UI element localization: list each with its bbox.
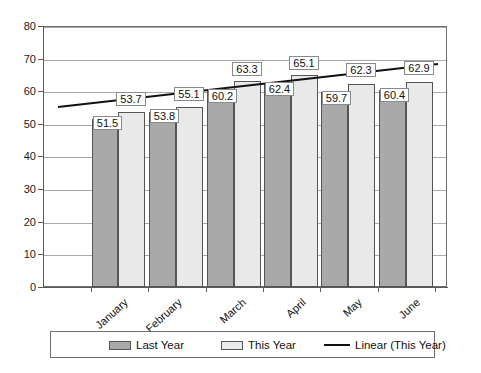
bar-this-year-february: [176, 107, 203, 287]
x-axis-line: [43, 287, 448, 288]
bar-this-year-april: [291, 75, 318, 287]
data-label-this-year-february: 55.1: [174, 87, 204, 101]
y-tick-label: 30: [8, 184, 36, 195]
bar-this-year-january: [118, 112, 145, 287]
data-label-last-year-june: 60.4: [380, 88, 409, 102]
data-label-this-year-january: 53.7: [116, 92, 146, 106]
bar-this-year-may: [348, 84, 375, 287]
x-tick-mark: [91, 287, 92, 292]
y-tick-label: 40: [8, 151, 36, 162]
y-tick-mark: [38, 156, 43, 157]
x-tick-mark: [148, 287, 149, 292]
x-tick-mark: [378, 287, 379, 292]
y-axis-line: [43, 26, 44, 288]
bar-last-year-march: [207, 91, 234, 287]
data-label-this-year-april: 65.1: [289, 56, 319, 70]
data-label-this-year-may: 62.3: [346, 63, 376, 77]
bar-this-year-march: [234, 81, 261, 287]
x-tick-mark: [206, 287, 207, 292]
gridline-80: [44, 27, 446, 28]
y-tick-label: 10: [8, 249, 36, 260]
y-tick-label: 70: [8, 54, 36, 65]
x-tick-mark: [435, 287, 436, 292]
y-tick-mark: [38, 124, 43, 125]
legend-item-this-year: This Year: [221, 337, 296, 353]
y-axis: 80 70 60 50 40 30 20 10 0: [0, 0, 36, 373]
x-tick-mark: [263, 287, 264, 292]
bar-last-year-may: [321, 92, 348, 287]
x-tick-mark: [320, 287, 321, 292]
y-tick-label: 50: [8, 119, 36, 130]
legend-label-last-year: Last Year: [136, 339, 184, 351]
gridline-70: [44, 60, 446, 61]
y-tick-mark: [38, 91, 43, 92]
y-tick-mark: [38, 59, 43, 60]
y-tick-label: 60: [8, 86, 36, 97]
bar-last-year-april: [264, 83, 291, 287]
legend-item-linear-this-year: Linear (This Year): [324, 337, 446, 353]
y-tick-mark: [38, 189, 43, 190]
y-tick-mark: [38, 222, 43, 223]
y-tick-label: 80: [8, 21, 36, 32]
legend-label-this-year: This Year: [248, 339, 296, 351]
data-label-last-year-may: 59.7: [322, 91, 351, 105]
bar-this-year-june: [406, 82, 433, 287]
legend: Last Year This Year Linear (This Year): [50, 331, 435, 358]
data-label-this-year-june: 62.9: [404, 61, 434, 75]
data-label-last-year-april: 62.4: [265, 82, 294, 96]
legend-label-linear-this-year: Linear (This Year): [355, 339, 446, 351]
data-label-this-year-march: 63.3: [232, 62, 262, 76]
bar-light-swatch-icon: [221, 341, 243, 350]
bar-chart: 80 70 60 50 40 30 20 10 0 51.5: [0, 0, 481, 373]
y-tick-mark: [38, 254, 43, 255]
data-label-last-year-february: 53.8: [150, 109, 179, 123]
data-label-last-year-january: 51.5: [93, 116, 122, 130]
data-label-last-year-march: 60.2: [208, 89, 237, 103]
y-tick-label: 20: [8, 217, 36, 228]
y-tick-mark: [38, 287, 43, 288]
legend-item-last-year: Last Year: [109, 337, 184, 353]
bar-dark-swatch-icon: [109, 341, 131, 350]
y-tick-mark: [38, 26, 43, 27]
bar-last-year-february: [149, 112, 176, 287]
y-tick-label: 0: [8, 282, 36, 293]
bar-last-year-june: [379, 90, 406, 287]
bar-last-year-january: [92, 119, 118, 287]
trendline-swatch-icon: [324, 344, 350, 346]
